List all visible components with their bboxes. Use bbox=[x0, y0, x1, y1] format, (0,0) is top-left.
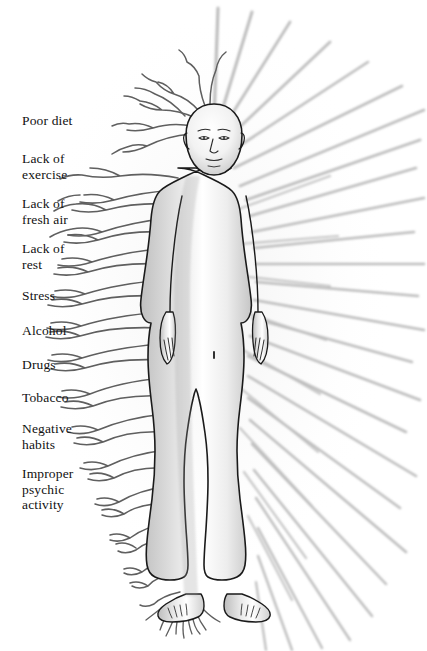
label-negative-habits: Negative habits bbox=[22, 421, 72, 452]
hand-right bbox=[253, 312, 268, 364]
label-alcohol: Alcohol bbox=[22, 323, 67, 339]
label-stress: Stress bbox=[22, 288, 55, 304]
foot-right bbox=[224, 594, 270, 622]
head bbox=[186, 104, 242, 175]
pupil-right bbox=[223, 137, 225, 139]
pupil-left bbox=[203, 137, 205, 139]
label-improper-psychic-activity: Improper psychic activity bbox=[22, 466, 73, 513]
illustration-canvas: Poor diet Lack of exercise Lack of fresh… bbox=[0, 0, 427, 651]
label-drugs: Drugs bbox=[22, 357, 56, 373]
hand-left bbox=[160, 312, 175, 364]
foot-left bbox=[158, 594, 204, 622]
label-tobacco: Tobacco bbox=[22, 390, 69, 406]
label-lack-of-rest: Lack of rest bbox=[22, 241, 65, 272]
label-lack-of-exercise: Lack of exercise bbox=[22, 151, 67, 182]
label-lack-of-fresh-air: Lack of fresh air bbox=[22, 196, 68, 227]
label-poor-diet: Poor diet bbox=[22, 113, 72, 129]
